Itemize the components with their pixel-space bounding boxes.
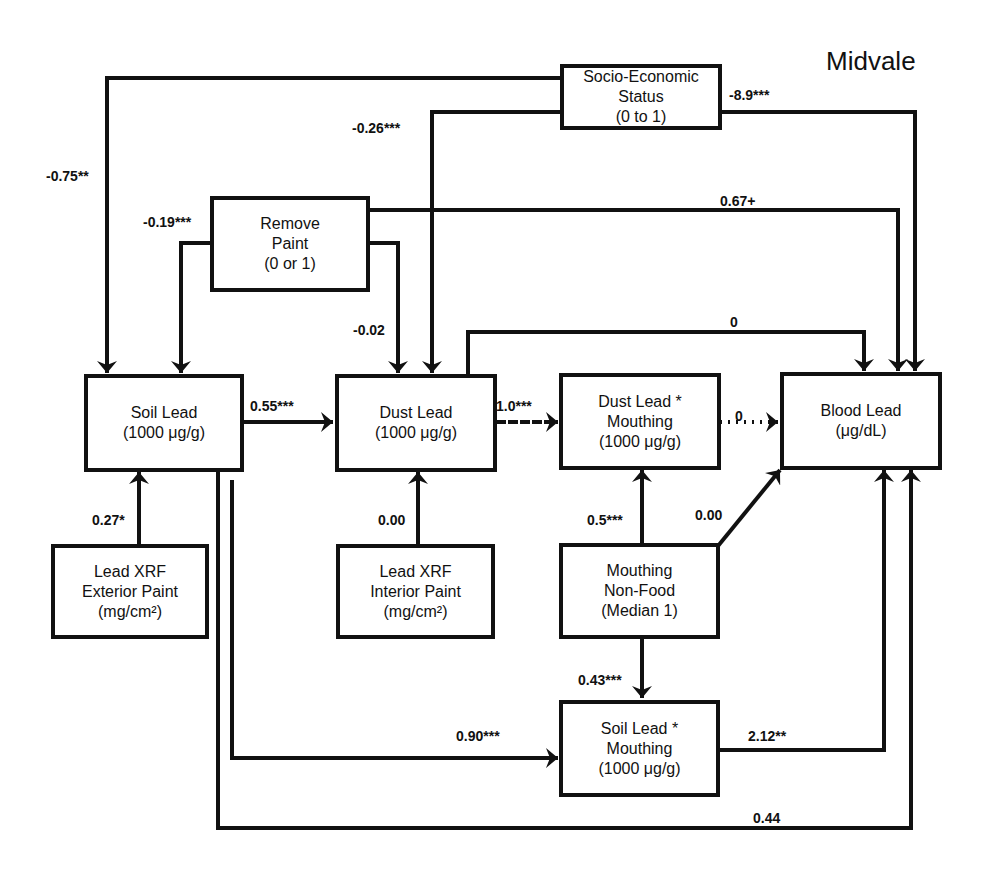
node-label: Mouthing	[607, 739, 673, 759]
coef-mouthing-dustmouthing: 0.5***	[587, 512, 623, 528]
node-label: Non-Food	[604, 581, 675, 601]
node-label: Dust Lead *	[598, 392, 682, 412]
node-label: Paint	[272, 234, 308, 254]
node-label: Socio-Economic	[583, 67, 699, 87]
node-label: (mg/cm²)	[384, 602, 448, 622]
node-label: Soil Lead	[131, 403, 198, 423]
node-label: (mg/cm²)	[98, 602, 162, 622]
node-label: Exterior Paint	[82, 582, 178, 602]
node-label: (1000 μg/g)	[598, 759, 680, 779]
coef-dust-dustmouthing: 1.0***	[496, 398, 532, 414]
coef-soilmouthing-blood: 2.12**	[748, 728, 786, 744]
coef-ses-dust: -0.26***	[352, 120, 400, 136]
node-lead-xrf-interior: Lead XRF Interior Paint (mg/cm²)	[336, 544, 495, 639]
node-label: (1000 μg/g)	[123, 423, 205, 443]
coef-mouthing-soilmouthing: 0.43***	[578, 672, 622, 688]
coef-soil-blood: 0.44	[753, 810, 780, 826]
node-label: Status	[618, 87, 663, 107]
node-label: Blood Lead	[821, 401, 902, 421]
node-soil-lead: Soil Lead (1000 μg/g)	[84, 374, 244, 472]
node-label: Interior Paint	[370, 582, 461, 602]
node-socio-economic-status: Socio-Economic Status (0 to 1)	[560, 64, 722, 130]
node-lead-xrf-exterior: Lead XRF Exterior Paint (mg/cm²)	[51, 544, 209, 639]
node-label: (0 or 1)	[264, 254, 316, 274]
node-label: Mouthing	[607, 561, 673, 581]
node-label: Dust Lead	[380, 403, 453, 423]
coef-ses-blood: -8.9***	[729, 87, 769, 103]
coef-xrfext-soil: 0.27*	[92, 512, 125, 528]
node-label: (μg/dL)	[835, 421, 886, 441]
node-label: (1000 μg/g)	[599, 432, 681, 452]
node-remove-paint: Remove Paint (0 or 1)	[210, 196, 370, 292]
coef-dustmouthing-blood: 0	[735, 408, 743, 424]
node-mouthing-non-food: Mouthing Non-Food (Median 1)	[559, 543, 720, 639]
coef-remove-blood: 0.67+	[720, 193, 755, 209]
coef-remove-soil: -0.19***	[143, 214, 191, 230]
coef-mouthing-blood: 0.00	[695, 507, 722, 523]
node-soil-lead-mouthing: Soil Lead * Mouthing (1000 μg/g)	[559, 700, 720, 797]
coef-dust-blood: 0	[730, 314, 738, 330]
coef-soil-dust: 0.55***	[250, 398, 294, 414]
node-label: (1000 μg/g)	[375, 423, 457, 443]
coef-ses-soil: -0.75**	[46, 168, 89, 184]
node-blood-lead: Blood Lead (μg/dL)	[780, 372, 942, 470]
node-label: (Median 1)	[601, 601, 677, 621]
site-title: Midvale	[826, 46, 916, 77]
node-label: Lead XRF	[379, 562, 451, 582]
node-label: Lead XRF	[94, 562, 166, 582]
node-label: Remove	[260, 214, 320, 234]
node-dust-lead: Dust Lead (1000 μg/g)	[335, 374, 497, 472]
coef-soil-soilmouthing: 0.90***	[456, 728, 500, 744]
node-label: Soil Lead *	[601, 719, 678, 739]
node-label: (0 to 1)	[616, 107, 667, 127]
coef-remove-dust: -0.02	[353, 322, 385, 338]
coef-xrfint-dust: 0.00	[378, 512, 405, 528]
node-label: Mouthing	[607, 412, 673, 432]
node-dust-lead-mouthing: Dust Lead * Mouthing (1000 μg/g)	[559, 373, 721, 470]
